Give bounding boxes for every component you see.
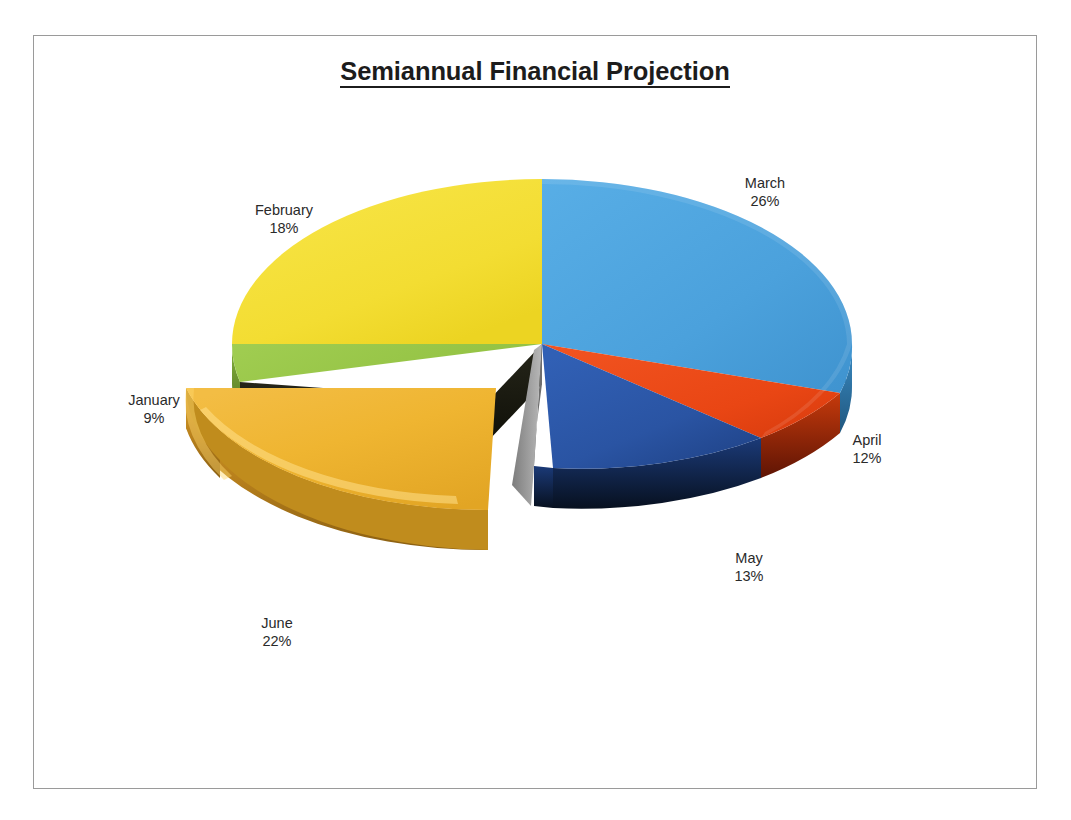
pie-label-june-percent: 22%	[217, 632, 337, 650]
pie-label-april: April 12%	[807, 431, 927, 467]
slice-june-exploded	[185, 388, 496, 550]
pie-label-april-name: April	[852, 432, 881, 448]
pie-label-february-percent: 18%	[224, 219, 344, 237]
pie-label-february-name: February	[255, 202, 313, 218]
pie-label-january: January 9%	[94, 391, 214, 427]
pie-label-june: June 22%	[217, 614, 337, 650]
pie-label-april-percent: 12%	[807, 449, 927, 467]
pie-label-march-percent: 26%	[705, 192, 825, 210]
pie-label-march-name: March	[745, 175, 785, 191]
pie-label-january-name: January	[128, 392, 180, 408]
pie-label-june-name: June	[261, 615, 292, 631]
pie-label-may-percent: 13%	[689, 567, 809, 585]
pie-label-january-percent: 9%	[94, 409, 214, 427]
pie-label-february: February 18%	[224, 201, 344, 237]
pie-chart: March 26% April 12% May 13% June 22% Jan…	[34, 36, 1038, 790]
pie-label-may-name: May	[735, 550, 762, 566]
chart-frame: Semiannual Financial Projection	[33, 35, 1037, 789]
pie-label-may: May 13%	[689, 549, 809, 585]
pie-label-march: March 26%	[705, 174, 825, 210]
